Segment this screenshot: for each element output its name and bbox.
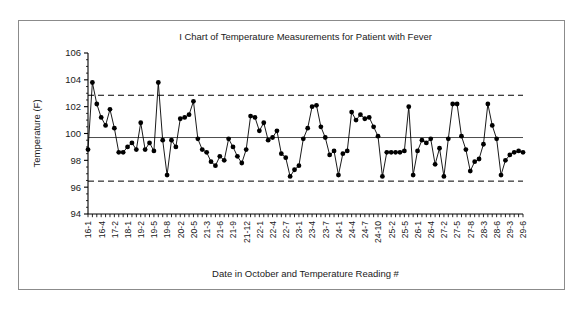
chart-title: I Chart of Temperature Measurements for … xyxy=(179,31,432,42)
data-point xyxy=(173,145,178,150)
data-point xyxy=(226,136,231,141)
data-point xyxy=(521,150,526,155)
data-point xyxy=(327,153,332,158)
x-axis-tick-label: 19-8 xyxy=(162,221,172,238)
data-point xyxy=(371,124,376,129)
data-point xyxy=(182,115,187,120)
data-point xyxy=(433,162,438,167)
data-point xyxy=(143,147,148,152)
x-axis-tick-label: 16-4 xyxy=(97,221,107,238)
data-point xyxy=(217,154,222,159)
x-axis-tick-label: 22-7 xyxy=(281,221,291,238)
data-point xyxy=(376,134,381,139)
data-point xyxy=(187,112,192,117)
y-axis-title: Temperature (F) xyxy=(31,99,42,167)
data-point xyxy=(138,120,143,125)
data-point xyxy=(178,116,183,121)
y-axis-tick-label: 102 xyxy=(65,101,81,112)
data-point xyxy=(301,136,306,141)
data-point xyxy=(450,102,455,107)
data-point xyxy=(402,149,407,154)
data-point xyxy=(261,120,266,125)
data-point xyxy=(477,157,482,162)
data-point xyxy=(248,114,253,119)
data-point xyxy=(512,150,517,155)
x-axis-tick-label: 29-6 xyxy=(518,221,528,238)
data-point xyxy=(244,147,249,152)
data-point xyxy=(103,123,108,128)
data-point xyxy=(297,163,302,168)
data-point xyxy=(398,150,403,155)
data-point xyxy=(231,145,236,150)
x-axis-tick-label: 26-4 xyxy=(426,221,436,238)
data-point xyxy=(213,163,218,168)
x-axis-tick-label: 24-1 xyxy=(334,221,344,238)
data-point xyxy=(358,112,363,117)
data-point xyxy=(332,149,337,154)
data-point xyxy=(424,140,429,145)
data-point xyxy=(442,174,447,179)
data-point xyxy=(490,123,495,128)
x-axis-tick-label: 25-5 xyxy=(400,221,410,238)
x-axis-tick-label: 23-4 xyxy=(307,221,317,238)
data-point xyxy=(99,115,104,120)
x-axis-tick-label: 24-7 xyxy=(360,221,370,238)
data-point xyxy=(323,135,328,140)
data-point xyxy=(112,126,117,131)
x-axis-tick-label: 22-4 xyxy=(268,221,278,238)
data-point xyxy=(270,135,275,140)
x-axis-tick-label: 21-3 xyxy=(202,221,212,238)
data-point xyxy=(420,138,425,143)
y-axis-tick-label: 100 xyxy=(65,128,81,139)
x-axis-tick-label: 23-1 xyxy=(294,221,304,238)
data-point xyxy=(275,128,280,133)
x-axis-tick-label: 19-2 xyxy=(136,221,146,238)
x-axis-tick-label: 21-12 xyxy=(242,221,252,243)
data-point xyxy=(86,147,91,152)
data-point xyxy=(362,116,367,121)
data-point xyxy=(257,128,262,133)
data-point xyxy=(463,147,468,152)
x-axis-tick-label: 23-7 xyxy=(321,221,331,238)
data-point xyxy=(472,159,477,164)
x-axis-tick-label: 17-2 xyxy=(110,221,120,238)
data-point xyxy=(428,136,433,141)
data-point xyxy=(288,174,293,179)
x-axis-tick-label: 16-1 xyxy=(83,221,93,238)
data-point xyxy=(195,136,200,141)
data-point xyxy=(253,115,258,120)
y-axis-tick-label: 104 xyxy=(65,74,81,85)
data-point xyxy=(380,174,385,179)
data-point xyxy=(314,103,319,108)
data-point xyxy=(200,147,205,152)
x-axis-tick-label: 18-1 xyxy=(123,221,133,238)
x-axis-tick-label: 22-1 xyxy=(255,221,265,238)
data-point xyxy=(165,173,170,178)
data-point xyxy=(406,104,411,109)
x-axis-tick-label: 21-9 xyxy=(228,221,238,238)
data-point xyxy=(494,136,499,141)
i-chart: I Chart of Temperature Measurements for … xyxy=(0,0,584,313)
data-point xyxy=(116,150,121,155)
x-axis-tick-label: 24-10 xyxy=(373,221,383,243)
data-point xyxy=(266,138,271,143)
data-point xyxy=(310,104,315,109)
data-point xyxy=(340,151,345,156)
data-point xyxy=(222,158,227,163)
x-axis-tick-label: 19-5 xyxy=(149,221,159,238)
data-point xyxy=(239,161,244,166)
y-axis-tick-label: 96 xyxy=(70,182,81,193)
x-axis-tick-label: 28-3 xyxy=(479,221,489,238)
data-point xyxy=(94,102,99,107)
data-point xyxy=(160,138,165,143)
y-axis-tick-label: 106 xyxy=(65,47,81,58)
x-axis-tick-label: 27-8 xyxy=(466,221,476,238)
data-point xyxy=(384,150,389,155)
data-point xyxy=(279,151,284,156)
data-point xyxy=(235,154,240,159)
data-point xyxy=(121,150,126,155)
y-axis-tick-label: 94 xyxy=(70,208,81,219)
x-axis-tick-label: 27-5 xyxy=(452,221,462,238)
data-point xyxy=(393,150,398,155)
x-axis-tick-label: 21-6 xyxy=(215,221,225,238)
